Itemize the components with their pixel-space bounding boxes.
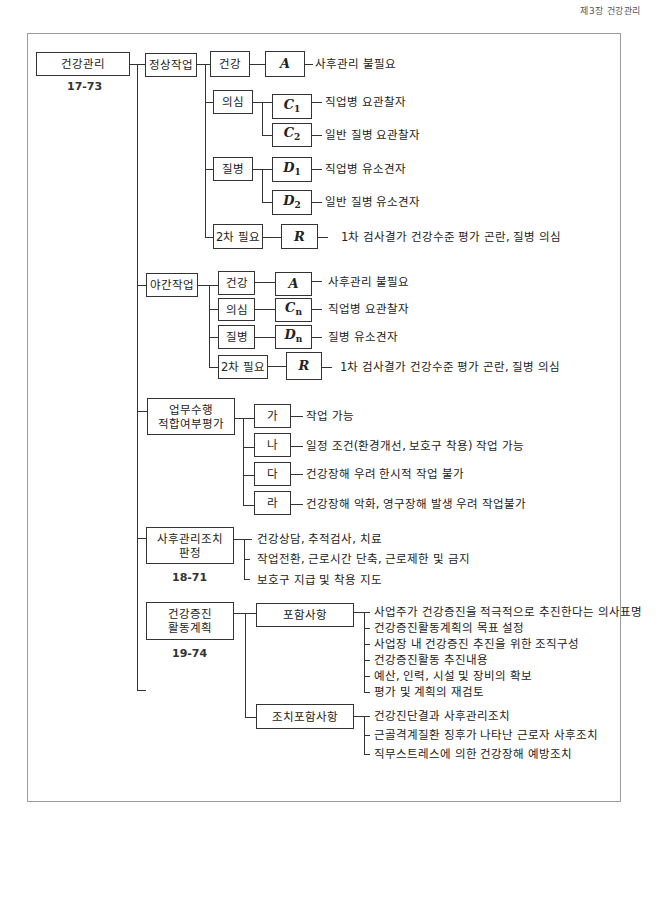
- night-grade-a: A: [275, 272, 312, 296]
- promotion-node: 건강증진 활동계획: [146, 602, 234, 640]
- connector: [291, 446, 303, 447]
- night-grade-r: R: [286, 352, 322, 380]
- fitness-label-2: 적합여부평가: [158, 417, 224, 431]
- connector: [205, 169, 213, 170]
- promotion-code: 19-74: [172, 647, 207, 660]
- status-label: 의심: [222, 95, 244, 109]
- connector: [312, 169, 322, 170]
- connector: [245, 717, 256, 718]
- connector: [364, 754, 370, 755]
- grade-var: A: [280, 57, 290, 71]
- trunk-line: [137, 64, 138, 691]
- followup-label-2: 판정: [179, 546, 201, 560]
- fitness-desc: 건강장해 우려 한시적 작업 불가: [306, 467, 464, 481]
- connector: [244, 559, 250, 560]
- fitness-grade: 라: [267, 496, 278, 510]
- grade-var: C2: [284, 126, 301, 144]
- fitness-grade-da: 다: [254, 462, 291, 486]
- promotion-label-1: 건강증진: [168, 607, 212, 621]
- measures-label: 조치포함사항: [272, 710, 338, 724]
- connector: [364, 660, 370, 661]
- included-item: 사업주가 건강증진을 적극적으로 추진한다는 의사표명: [374, 605, 642, 619]
- night-status-secondary: 2차 필요: [218, 355, 268, 379]
- status-label: 건강: [226, 276, 248, 290]
- night-work-node: 야간작업: [146, 273, 198, 297]
- page-header: 제3장 건강관리: [580, 4, 641, 17]
- connector: [364, 735, 370, 736]
- night-work-label: 야간작업: [150, 278, 194, 292]
- connector: [312, 135, 322, 136]
- measures-item: 직무스트레스에 의한 건강장해 예방조치: [374, 747, 572, 761]
- included-node: 포함사항: [256, 603, 354, 627]
- connector: [291, 416, 303, 417]
- connector: [205, 237, 213, 238]
- status-suspect: 의심: [213, 90, 253, 114]
- connector: [209, 367, 218, 368]
- grade-desc: 질병 유소견자: [328, 330, 398, 344]
- connector: [243, 505, 254, 506]
- connector: [364, 692, 370, 693]
- grade-var: R: [299, 359, 310, 373]
- connector: [197, 64, 210, 65]
- included-label: 포함사항: [283, 608, 327, 622]
- grade-desc: 직업병 요관찰자: [325, 95, 406, 109]
- grade-desc: 사후관리 불필요: [328, 275, 409, 289]
- connector: [262, 135, 272, 136]
- connector: [234, 539, 252, 540]
- connector: [137, 285, 146, 286]
- measures-item: 근골격계질환 징후가 나타난 근로자 사후조치: [374, 728, 598, 742]
- connector: [354, 716, 370, 717]
- measures-item: 건강진단결과 사후관리조치: [374, 709, 510, 723]
- followup-item: 보호구 지급 및 착용 지도: [257, 573, 382, 587]
- fitness-desc: 일정 조건(환경개선, 보호구 착용) 작업 가능: [306, 439, 524, 453]
- connector: [312, 337, 322, 338]
- connector: [305, 64, 313, 65]
- measures-node: 조치포함사항: [256, 704, 354, 729]
- connector: [312, 102, 322, 103]
- root-code: 17-73: [67, 80, 102, 93]
- status-label: 건강: [219, 57, 241, 71]
- night-status-healthy: 건강: [218, 271, 255, 295]
- fitness-grade: 가: [267, 409, 278, 423]
- followup-code: 18-71: [172, 571, 207, 584]
- night-status-disease: 질병: [218, 325, 255, 349]
- connector: [255, 337, 275, 338]
- status-label: 질병: [226, 330, 248, 344]
- included-item: 건강증진활동 추진내용: [374, 653, 488, 667]
- status-label: 질병: [222, 162, 244, 176]
- connector: [137, 690, 146, 691]
- grade-var: D2: [283, 194, 301, 212]
- night-grade-dn: Dn: [275, 325, 312, 349]
- grade-d1: D1: [272, 157, 312, 182]
- included-item: 예산, 인력, 시설 및 장비의 확보: [374, 669, 532, 683]
- status-secondary: 2차 필요: [213, 224, 263, 249]
- connector: [137, 538, 146, 539]
- grade-var: C1: [284, 98, 301, 116]
- connector: [243, 475, 254, 476]
- connector: [263, 237, 281, 238]
- grade-a: A: [265, 51, 305, 77]
- connector: [262, 202, 272, 203]
- followup-item: 건강상담, 추적검사, 치료: [257, 532, 382, 546]
- fitness-desc: 건강장해 악화, 영구장해 발생 우려 작업불가: [306, 497, 526, 511]
- connector: [198, 285, 218, 286]
- grade-c2: C2: [272, 123, 312, 147]
- connector: [291, 504, 303, 505]
- root-node: 건강관리: [36, 52, 130, 76]
- connector: [235, 418, 254, 419]
- connector: [250, 64, 265, 65]
- branch-line: [262, 102, 263, 135]
- connector: [255, 282, 275, 283]
- grade-desc: 1차 검사결가 건강수준 평가 곤란, 질병 의심: [340, 360, 560, 374]
- included-item: 건강증진활동계획의 목표 설정: [374, 621, 524, 635]
- included-item: 평가 및 계획의 재검토: [374, 685, 484, 699]
- connector: [312, 281, 322, 282]
- connector: [244, 579, 250, 580]
- grade-var: Dn: [285, 328, 303, 346]
- fitness-desc: 작업 가능: [306, 409, 354, 423]
- normal-work-branch-line: [205, 64, 206, 237]
- connector: [322, 367, 332, 368]
- root-label: 건강관리: [61, 57, 105, 71]
- grade-r: R: [281, 224, 318, 249]
- status-label: 2차 필요: [216, 230, 260, 244]
